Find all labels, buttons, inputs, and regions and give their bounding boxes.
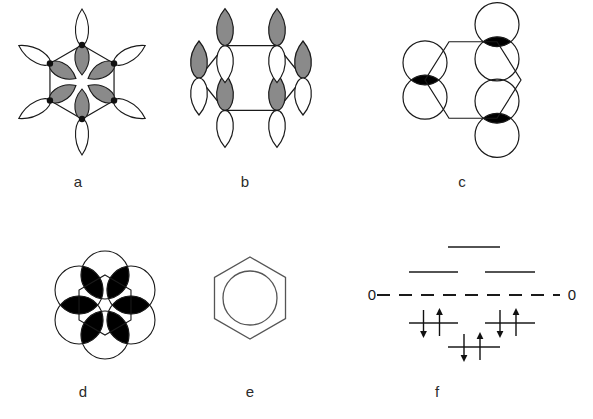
zero-label-right: 0	[562, 286, 582, 303]
panel-label-f: f	[422, 383, 452, 400]
panel-f	[360, 230, 585, 370]
panel-c-drawing	[395, 0, 565, 165]
panel-b	[175, 0, 340, 165]
panel-label-a: a	[63, 173, 93, 190]
panel-label-e: e	[235, 383, 265, 400]
panel-b-drawing	[175, 0, 340, 165]
panel-e	[195, 245, 310, 365]
panel-d	[40, 245, 180, 365]
energy-level-diagram	[360, 230, 585, 370]
zero-label-left: 0	[362, 286, 382, 303]
panel-label-b: b	[230, 173, 260, 190]
panel-c	[395, 0, 565, 165]
panel-d-drawing	[40, 245, 180, 365]
panel-a-drawing	[0, 0, 170, 165]
panel-a	[0, 0, 170, 165]
panel-label-c: c	[447, 173, 477, 190]
figure-canvas: a b c d e	[0, 0, 593, 419]
panel-label-d: d	[68, 383, 98, 400]
panel-e-drawing	[195, 245, 310, 365]
